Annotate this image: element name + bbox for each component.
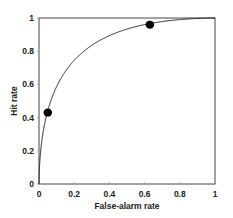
data-point	[44, 109, 53, 117]
axis-ticks	[37, 18, 215, 184]
x-axis-title: False-alarm rate	[94, 201, 159, 211]
plot-border	[39, 18, 215, 184]
roc-chart: 00.20.40.60.81 00.20.40.60.81 False-alar…	[0, 0, 233, 218]
x-tick-label: 1	[213, 189, 218, 199]
data-points	[44, 21, 155, 117]
x-tick-label: 0.6	[139, 189, 151, 199]
roc-curve	[39, 18, 215, 184]
plot-frame	[39, 18, 215, 184]
x-tick-label: 0	[37, 189, 42, 199]
x-tick-label: 0.4	[103, 189, 115, 199]
y-tick-label: 0.6	[22, 79, 34, 89]
x-tick-label: 0.8	[174, 189, 186, 199]
x-tick-label: 0.2	[68, 189, 80, 199]
data-point	[146, 21, 155, 29]
x-tick-labels: 00.20.40.60.81	[37, 189, 218, 199]
y-tick-label: 0.2	[22, 146, 34, 156]
y-tick-label: 1	[29, 13, 34, 23]
y-tick-label: 0	[29, 179, 34, 189]
y-axis-title: Hit rate	[9, 86, 19, 116]
y-tick-label: 0.4	[22, 113, 34, 123]
y-tick-label: 0.8	[22, 46, 34, 56]
y-tick-labels: 00.20.40.60.81	[22, 13, 34, 189]
